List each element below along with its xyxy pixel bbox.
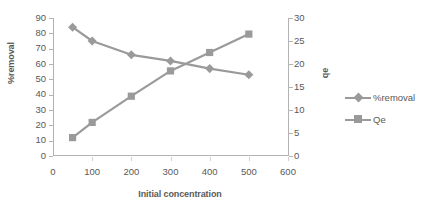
data-point-marker <box>89 119 96 126</box>
legend-label-qe: Qe <box>371 114 386 125</box>
data-point-marker <box>244 70 253 79</box>
data-point-marker <box>206 49 213 56</box>
data-point-marker <box>167 67 174 74</box>
data-point-marker <box>166 56 175 65</box>
chart-container: %removal qe Initial concentration 010203… <box>0 0 444 214</box>
series-line-removal <box>73 27 249 75</box>
chart-legend: %removal Qe <box>345 86 440 130</box>
data-point-marker <box>127 50 136 59</box>
data-point-marker <box>205 64 214 73</box>
legend-item-qe: Qe <box>345 108 440 130</box>
legend-key-qe-icon <box>345 113 371 125</box>
data-point-marker <box>69 134 76 141</box>
legend-key-removal-icon <box>345 91 371 103</box>
series-line-qe <box>73 34 249 138</box>
data-point-marker <box>245 31 252 38</box>
legend-label-removal: %removal <box>371 92 415 103</box>
legend-item-removal: %removal <box>345 86 440 108</box>
data-point-marker <box>128 93 135 100</box>
